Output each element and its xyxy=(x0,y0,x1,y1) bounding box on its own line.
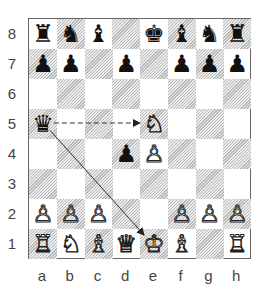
square-c5[interactable] xyxy=(85,109,113,139)
square-e4[interactable]: ♙ xyxy=(140,139,168,169)
square-c2[interactable]: ♙ xyxy=(85,199,113,229)
rank-label: 8 xyxy=(4,25,20,42)
square-f5[interactable] xyxy=(168,109,196,139)
square-g3[interactable] xyxy=(196,169,224,199)
square-g6[interactable] xyxy=(196,79,224,109)
square-a2[interactable]: ♙ xyxy=(29,199,57,229)
square-b3[interactable] xyxy=(57,169,85,199)
square-c6[interactable] xyxy=(85,79,113,109)
square-e7[interactable] xyxy=(140,49,168,79)
white-pawn-icon[interactable]: ♙ xyxy=(171,202,193,226)
white-bishop-icon[interactable]: ♗ xyxy=(88,232,110,256)
square-a7[interactable]: ♟ xyxy=(29,49,57,79)
square-g2[interactable]: ♙ xyxy=(196,199,224,229)
file-label: c xyxy=(87,267,107,284)
square-b4[interactable] xyxy=(57,139,85,169)
square-b6[interactable] xyxy=(57,79,85,109)
square-c7[interactable] xyxy=(85,49,113,79)
square-b2[interactable]: ♙ xyxy=(57,199,85,229)
square-e1[interactable]: ♔ xyxy=(140,229,168,259)
square-a1[interactable]: ♖ xyxy=(29,229,57,259)
square-d2[interactable] xyxy=(112,199,140,229)
black-pawn-icon[interactable]: ♟ xyxy=(60,52,82,76)
black-rook-icon[interactable]: ♜ xyxy=(32,22,54,46)
square-h5[interactable] xyxy=(223,109,251,139)
black-pawn-icon[interactable]: ♟ xyxy=(115,142,137,166)
square-a4[interactable] xyxy=(29,139,57,169)
square-d4[interactable]: ♟ xyxy=(112,139,140,169)
black-pawn-icon[interactable]: ♟ xyxy=(199,52,221,76)
square-c4[interactable] xyxy=(85,139,113,169)
white-knight-icon[interactable]: ♘ xyxy=(143,112,165,136)
square-a3[interactable] xyxy=(29,169,57,199)
square-h6[interactable] xyxy=(223,79,251,109)
square-b7[interactable]: ♟ xyxy=(57,49,85,79)
square-d7[interactable]: ♟ xyxy=(112,49,140,79)
square-f8[interactable]: ♝ xyxy=(168,19,196,49)
square-f2[interactable]: ♙ xyxy=(168,199,196,229)
black-queen-icon[interactable]: ♛ xyxy=(32,112,54,136)
square-h3[interactable] xyxy=(223,169,251,199)
rank-label: 7 xyxy=(4,55,20,72)
square-b1[interactable]: ♘ xyxy=(57,229,85,259)
white-rook-icon[interactable]: ♖ xyxy=(226,232,248,256)
black-pawn-icon[interactable]: ♟ xyxy=(226,52,248,76)
square-f4[interactable] xyxy=(168,139,196,169)
white-pawn-icon[interactable]: ♙ xyxy=(199,202,221,226)
black-bishop-icon[interactable]: ♝ xyxy=(171,22,193,46)
white-rook-icon[interactable]: ♖ xyxy=(32,232,54,256)
square-h1[interactable]: ♖ xyxy=(223,229,251,259)
square-b8[interactable]: ♞ xyxy=(57,19,85,49)
square-g7[interactable]: ♟ xyxy=(196,49,224,79)
square-e2[interactable] xyxy=(140,199,168,229)
black-pawn-icon[interactable]: ♟ xyxy=(115,52,137,76)
square-g4[interactable] xyxy=(196,139,224,169)
black-knight-icon[interactable]: ♞ xyxy=(199,22,221,46)
square-c3[interactable] xyxy=(85,169,113,199)
white-king-icon[interactable]: ♔ xyxy=(143,232,165,256)
square-g1[interactable] xyxy=(196,229,224,259)
rank-label: 3 xyxy=(4,175,20,192)
square-d5[interactable] xyxy=(112,109,140,139)
square-h8[interactable]: ♜ xyxy=(223,19,251,49)
square-c1[interactable]: ♗ xyxy=(85,229,113,259)
square-a6[interactable] xyxy=(29,79,57,109)
square-e6[interactable] xyxy=(140,79,168,109)
square-f1[interactable]: ♗ xyxy=(168,229,196,259)
square-g8[interactable]: ♞ xyxy=(196,19,224,49)
square-e5[interactable]: ♘ xyxy=(140,109,168,139)
square-d6[interactable] xyxy=(112,79,140,109)
white-queen-icon[interactable]: ♕ xyxy=(115,232,137,256)
white-pawn-icon[interactable]: ♙ xyxy=(226,202,248,226)
black-knight-icon[interactable]: ♞ xyxy=(60,22,82,46)
square-h7[interactable]: ♟ xyxy=(223,49,251,79)
square-a5[interactable]: ♛ xyxy=(29,109,57,139)
square-h4[interactable] xyxy=(223,139,251,169)
file-label: a xyxy=(32,267,52,284)
white-pawn-icon[interactable]: ♙ xyxy=(88,202,110,226)
black-king-icon[interactable]: ♚ xyxy=(143,22,165,46)
square-h2[interactable]: ♙ xyxy=(223,199,251,229)
white-bishop-icon[interactable]: ♗ xyxy=(171,232,193,256)
black-pawn-icon[interactable]: ♟ xyxy=(32,52,54,76)
square-f6[interactable] xyxy=(168,79,196,109)
white-pawn-icon[interactable]: ♙ xyxy=(143,142,165,166)
white-pawn-icon[interactable]: ♙ xyxy=(60,202,82,226)
square-e3[interactable] xyxy=(140,169,168,199)
black-rook-icon[interactable]: ♜ xyxy=(226,22,248,46)
square-d8[interactable] xyxy=(112,19,140,49)
square-b5[interactable] xyxy=(57,109,85,139)
square-g5[interactable] xyxy=(196,109,224,139)
black-bishop-icon[interactable]: ♝ xyxy=(88,22,110,46)
square-f3[interactable] xyxy=(168,169,196,199)
square-c8[interactable]: ♝ xyxy=(85,19,113,49)
rank-label: 4 xyxy=(4,145,20,162)
square-e8[interactable]: ♚ xyxy=(140,19,168,49)
square-d1[interactable]: ♕ xyxy=(112,229,140,259)
white-knight-icon[interactable]: ♘ xyxy=(60,232,82,256)
black-pawn-icon[interactable]: ♟ xyxy=(171,52,193,76)
square-d3[interactable] xyxy=(112,169,140,199)
square-f7[interactable]: ♟ xyxy=(168,49,196,79)
white-pawn-icon[interactable]: ♙ xyxy=(32,202,54,226)
square-a8[interactable]: ♜ xyxy=(29,19,57,49)
